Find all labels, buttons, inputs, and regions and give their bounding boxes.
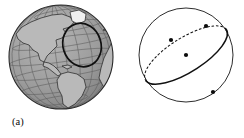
panel-b-sphere: A B O (b) [122,0,244,138]
figure-root: (a) A B O (b) [0,0,244,138]
point-B-marker [211,90,215,94]
panel-a-globe: (a) [0,0,122,138]
point-back-arc-marker [204,24,208,28]
caption-panel-a: (a) [12,117,24,128]
sphere-svg [122,0,244,138]
point-O-center-marker [184,53,188,57]
point-A-marker [169,38,173,42]
